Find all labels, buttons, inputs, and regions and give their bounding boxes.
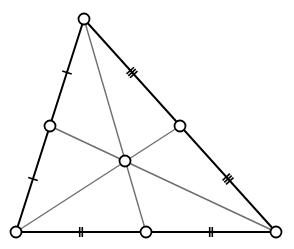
points: [11, 14, 282, 238]
median-bottom-right: [50, 126, 276, 232]
median-top: [84, 19, 146, 232]
centroid-point: [120, 156, 131, 167]
midpoint-left-point: [45, 121, 56, 132]
vertex-top-point: [79, 14, 90, 25]
triangle-medians-diagram: [0, 0, 294, 249]
midpoint-bottom-point: [141, 227, 152, 238]
midpoint-right-point: [175, 121, 186, 132]
vertex-bottom-left-point: [11, 227, 22, 238]
vertex-bottom-right-point: [271, 227, 282, 238]
median-bottom-left: [16, 126, 180, 232]
